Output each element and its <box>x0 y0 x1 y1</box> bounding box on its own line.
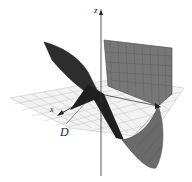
x-axis-label: x <box>50 106 54 114</box>
z-axis-label: z <box>94 6 98 15</box>
region-d-label: D <box>60 126 69 138</box>
surface-diagram <box>0 0 192 182</box>
